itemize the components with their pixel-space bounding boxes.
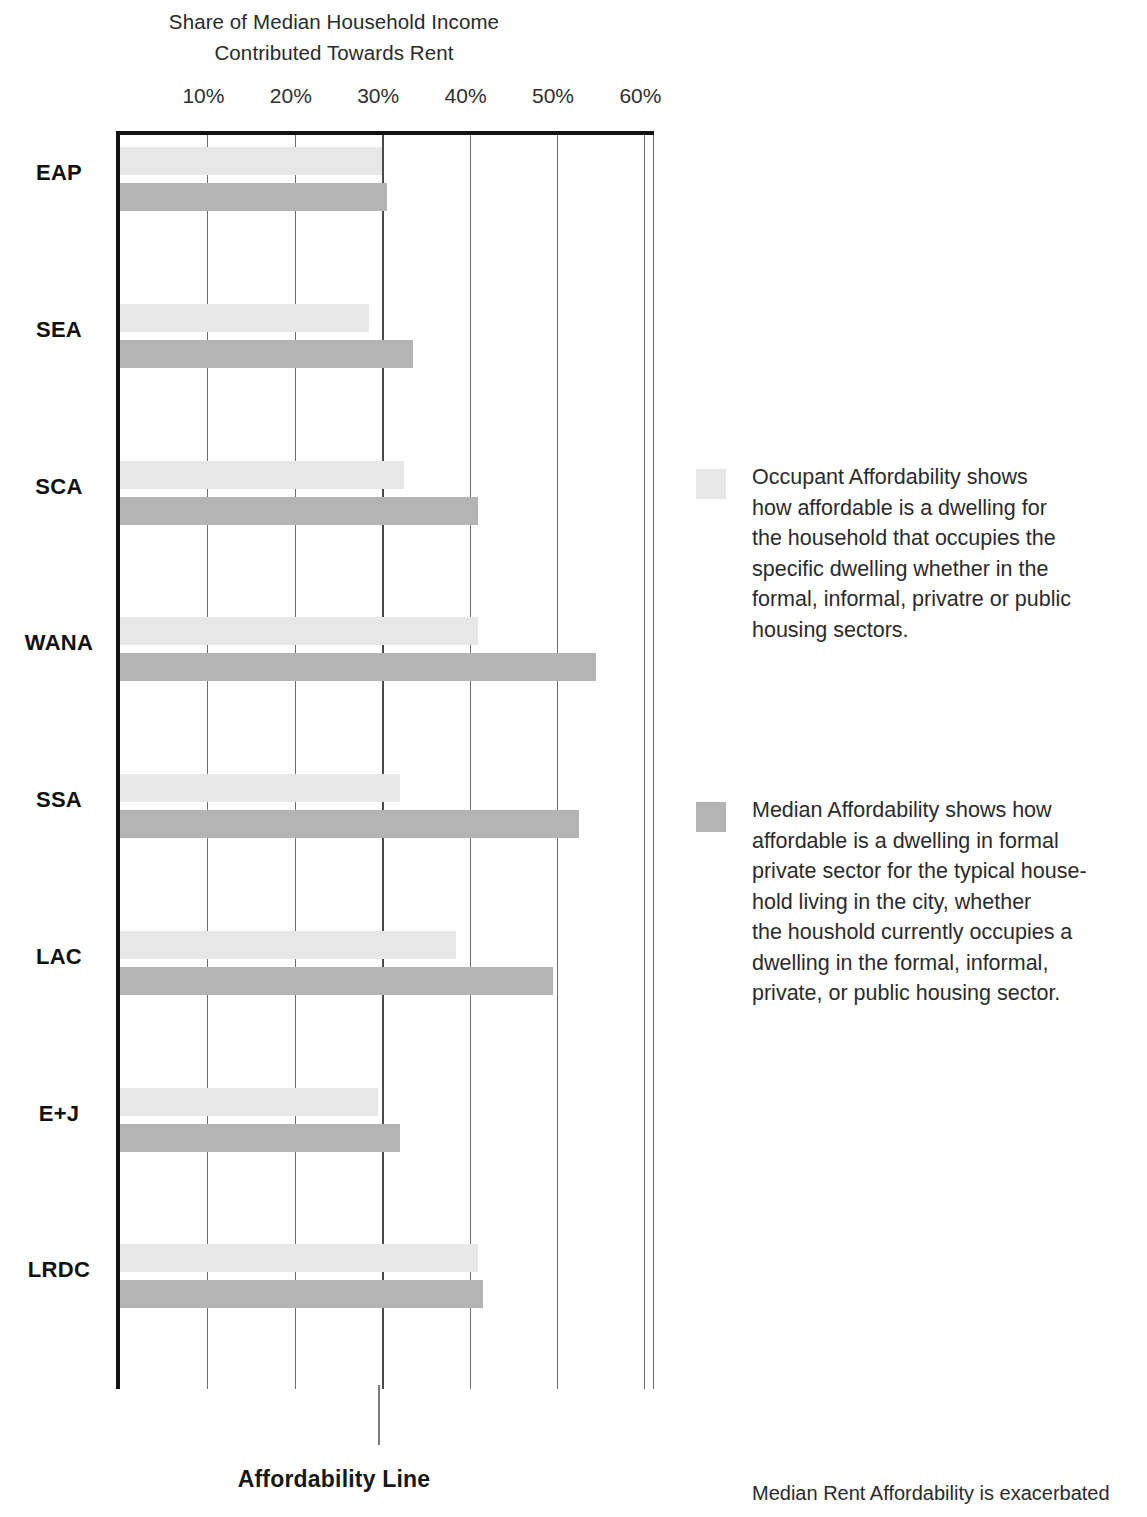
- chart-title-line-2: Contributed Towards Rent: [0, 37, 668, 68]
- gridline-50: [557, 135, 558, 1389]
- legend-description-occupant: Occupant Affordability showshow affordab…: [752, 462, 1144, 645]
- chart-title-line-1: Share of Median Household Income: [0, 6, 668, 37]
- bar-median-eap: [120, 183, 387, 211]
- legend-line: dwelling in the formal, informal,: [752, 948, 1144, 979]
- category-label-lrdc: LRDC: [6, 1257, 112, 1283]
- legend-line: hold living in the city, whether: [752, 887, 1144, 918]
- affordability-line-extension: [378, 1385, 380, 1445]
- legend-description-median: Median Affordability shows howaffordable…: [752, 795, 1144, 1009]
- affordability-line-label: Affordability Line: [0, 1466, 668, 1493]
- category-label-eap: EAP: [6, 160, 112, 186]
- bar-median-wana: [120, 653, 596, 681]
- x-tick-label-10: 10%: [182, 84, 224, 108]
- gridline-60: [644, 135, 645, 1389]
- plot-right-border: [653, 135, 654, 1389]
- legend-line: Median Affordability shows how: [752, 795, 1144, 826]
- plot-inner: [120, 135, 654, 1389]
- bar-median-lac: [120, 967, 553, 995]
- x-tick-label-50: 50%: [532, 84, 574, 108]
- x-tick-label-60: 60%: [619, 84, 661, 108]
- bar-median-sea: [120, 340, 413, 368]
- bar-occupant-sca: [120, 461, 404, 489]
- category-label-eplusj: E+J: [6, 1101, 112, 1127]
- category-label-sca: SCA: [6, 474, 112, 500]
- legend-line: private, or public housing sector.: [752, 978, 1144, 1009]
- legend-swatch-occupant-icon: [696, 469, 726, 499]
- gridline-40: [470, 135, 471, 1389]
- bar-occupant-lrdc: [120, 1244, 478, 1272]
- legend-line: how affordable is a dwelling for: [752, 493, 1144, 524]
- bar-occupant-sea: [120, 304, 369, 332]
- bar-median-ssa: [120, 810, 579, 838]
- legend-line: specific dwelling whether in the: [752, 554, 1144, 585]
- legend-line: the houshold currently occupies a: [752, 917, 1144, 948]
- x-tick-label-20: 20%: [270, 84, 312, 108]
- footnote-text: Median Rent Affordability is exacerbated: [752, 1478, 1147, 1517]
- x-tick-label-40: 40%: [445, 84, 487, 108]
- bar-occupant-wana: [120, 617, 478, 645]
- legend-line: formal, informal, privatre or public: [752, 584, 1144, 615]
- legend-line: housing sectors.: [752, 615, 1144, 646]
- bar-median-lrdc: [120, 1280, 483, 1308]
- bar-occupant-eap: [120, 147, 382, 175]
- x-axis-tick-labels: 10%20%30%40%50%60%: [0, 84, 690, 112]
- plot-area: [116, 131, 654, 1389]
- x-tick-label-30: 30%: [357, 84, 399, 108]
- legend-panel: Occupant Affordability showshow affordab…: [690, 0, 1147, 1517]
- category-label-lac: LAC: [6, 944, 112, 970]
- legend-swatch-median-icon: [696, 802, 726, 832]
- category-label-sea: SEA: [6, 317, 112, 343]
- affordability-gridline: [382, 135, 384, 1389]
- bar-median-eplusj: [120, 1124, 400, 1152]
- bar-occupant-lac: [120, 931, 456, 959]
- chart-title: Share of Median Household Income Contrib…: [0, 6, 668, 68]
- legend-line: the household that occupies the: [752, 523, 1144, 554]
- bar-median-sca: [120, 497, 478, 525]
- chart-panel: Share of Median Household Income Contrib…: [0, 0, 690, 1517]
- legend-line: affordable is a dwelling in formal: [752, 826, 1144, 857]
- y-axis-category-labels: EAPSEASCAWANASSALACE+JLRDC: [0, 131, 112, 1385]
- bar-occupant-eplusj: [120, 1088, 378, 1116]
- category-label-ssa: SSA: [6, 787, 112, 813]
- bar-occupant-ssa: [120, 774, 400, 802]
- legend-line: Occupant Affordability shows: [752, 462, 1144, 493]
- legend-line: private sector for the typical house-: [752, 856, 1144, 887]
- category-label-wana: WANA: [6, 630, 112, 656]
